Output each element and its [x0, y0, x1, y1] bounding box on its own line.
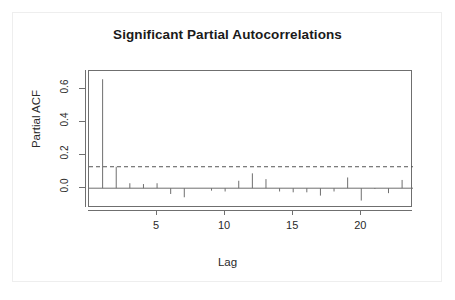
y-axis-tick — [79, 154, 85, 155]
plot-inner — [89, 71, 411, 206]
acf-plot-svg — [89, 71, 413, 208]
x-axis-title: Lag — [0, 256, 455, 268]
chart-figure: Significant Partial Autocorrelations Par… — [0, 0, 455, 300]
y-axis-title: Partial ACF — [30, 79, 42, 159]
y-axis-tick-label: 0.6 — [59, 73, 70, 101]
y-axis-tick — [79, 88, 85, 89]
y-axis-tick-label: 0.2 — [59, 139, 70, 167]
y-axis-tick — [79, 187, 85, 188]
x-axis-tick — [360, 210, 361, 215]
y-axis-tick — [79, 121, 85, 122]
x-axis-line — [88, 210, 412, 211]
y-axis-line — [85, 70, 86, 207]
x-axis-tick — [292, 210, 293, 215]
x-axis-tick — [224, 210, 225, 215]
plot-area — [88, 70, 412, 207]
x-axis-tick-label: 20 — [347, 219, 373, 231]
y-axis-tick-label: 0.0 — [59, 172, 70, 200]
y-axis-tick-label: 0.4 — [59, 106, 70, 134]
x-axis-tick-label: 5 — [143, 219, 169, 231]
x-axis-tick — [156, 210, 157, 215]
x-axis-tick-label: 15 — [279, 219, 305, 231]
x-axis-tick-label: 10 — [211, 219, 237, 231]
chart-title: Significant Partial Autocorrelations — [0, 27, 455, 42]
